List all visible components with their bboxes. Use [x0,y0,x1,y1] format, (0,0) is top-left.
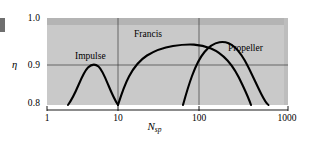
curve-impulse [68,65,118,105]
curve-label-impulse: Impulse [75,51,106,61]
curve-label-propeller: Propeller [228,43,263,53]
gridlines [47,18,288,105]
y-axis-label-eta: η [12,59,17,70]
ytick-label-3: 0.8 [10,98,40,108]
x-axis-label-base: N [147,120,154,132]
curve-label-francis: Francis [134,29,162,39]
x-axis-label-subscript: sp [155,125,162,134]
efficiency-vs-specific-speed-chart: 1.0 0.9 0.8 η 1 10 100 1000 Nsp Impulse … [0,0,309,143]
x-axis-label: Nsp [0,120,309,134]
ytick-label-1: 1.0 [10,13,40,23]
